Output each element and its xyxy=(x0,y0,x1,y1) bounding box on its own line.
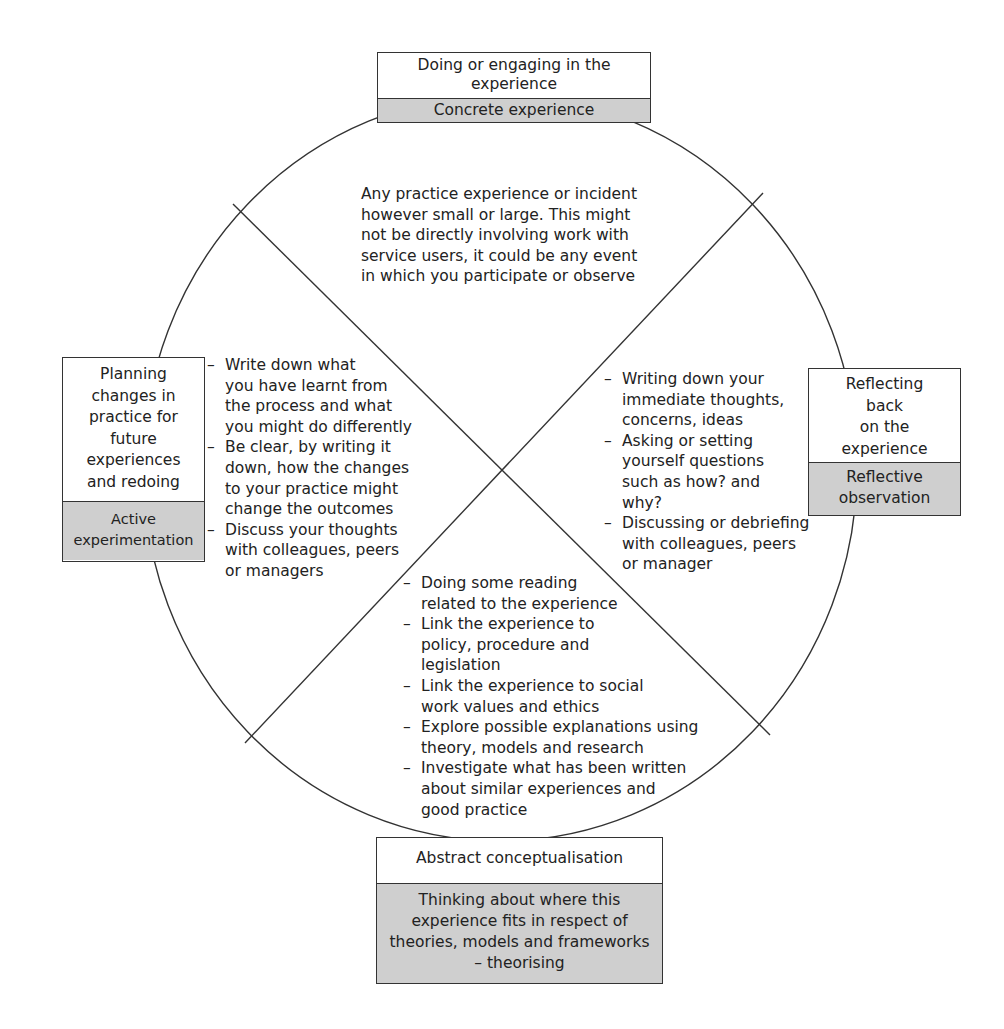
quadrant-left-list: Write down what you have learnt from the… xyxy=(207,355,427,582)
stage-description-left-line: and redoing xyxy=(63,472,204,494)
stage-label-left-line: experimentation xyxy=(63,530,204,551)
item-line: or manager xyxy=(622,554,824,575)
item-line: Asking or setting xyxy=(622,431,824,452)
stage-description-left-line: future xyxy=(63,429,204,451)
quadrant-left-item: Discuss your thoughts with colleagues, p… xyxy=(207,520,427,582)
stage-description-right-line: back xyxy=(809,396,960,418)
stage-label-right-line: observation xyxy=(809,488,960,509)
item-line: Explore possible explanations using xyxy=(421,717,743,738)
quadrant-bottom-item: Link the experience to social work value… xyxy=(403,676,743,717)
quadrant-right-item: Writing down your immediate thoughts, co… xyxy=(604,369,824,431)
stage-description-left-line: practice for xyxy=(63,407,204,429)
quadrant-top-line: however small or large. This might xyxy=(361,205,661,226)
quadrant-top-line: Any practice experience or incident xyxy=(361,184,661,205)
item-line: Write down what xyxy=(225,355,427,376)
quadrant-right-list: Writing down your immediate thoughts, co… xyxy=(604,369,824,575)
quadrant-right-item: Discussing or debriefing with colleagues… xyxy=(604,513,824,575)
item-line: yourself questions xyxy=(622,451,824,472)
stage-description-right-line: Reflecting xyxy=(809,374,960,396)
item-line: good practice xyxy=(421,800,743,821)
stage-description-left-line: changes in xyxy=(63,386,204,408)
item-line: legislation xyxy=(421,655,743,676)
item-line: Link the experience to social xyxy=(421,676,743,697)
item-line: to your practice might xyxy=(225,479,427,500)
stage-description-right-line: on the xyxy=(809,417,960,439)
quadrant-bottom-item: Link the experience to policy, procedure… xyxy=(403,614,743,676)
item-line: down, how the changes xyxy=(225,458,427,479)
quadrant-bottom-list: Doing some reading related to the experi… xyxy=(403,573,743,820)
quadrant-bottom-item: Investigate what has been written about … xyxy=(403,758,743,820)
stage-description-left-line: experiences xyxy=(63,450,204,472)
item-line: why? xyxy=(622,493,824,514)
stage-label-left-line: Active xyxy=(63,509,204,530)
item-line: with colleagues, peers xyxy=(225,540,427,561)
item-line: related to the experience xyxy=(421,594,743,615)
quadrant-top-line: service users, it could be any event xyxy=(361,246,661,267)
quadrant-text-bottom: Doing some reading related to the experi… xyxy=(403,573,743,820)
item-line: you have learnt from xyxy=(225,376,427,397)
item-line: you might do differently xyxy=(225,417,427,438)
stage-description-bottom-line: Thinking about where this xyxy=(377,890,662,911)
stage-description-top: Doing or engaging in the experience xyxy=(417,56,610,93)
item-line: about similar experiences and xyxy=(421,779,743,800)
stage-label-right-line: Reflective xyxy=(809,467,960,488)
stage-description-bottom-line: experience fits in respect of xyxy=(377,911,662,932)
stage-description-bottom-line: – theorising xyxy=(377,953,662,974)
item-line: change the outcomes xyxy=(225,499,427,520)
quadrant-top-line: in which you participate or observe xyxy=(361,266,661,287)
quadrant-bottom-item: Doing some reading related to the experi… xyxy=(403,573,743,614)
stage-box-concrete-experience: Doing or engaging in the experience Conc… xyxy=(377,52,651,123)
quadrant-top-line: not be directly involving work with xyxy=(361,225,661,246)
stage-box-active-experimentation: Planning changes in practice for future … xyxy=(62,357,205,562)
item-line: policy, procedure and xyxy=(421,635,743,656)
item-line: concerns, ideas xyxy=(622,410,824,431)
item-line: Investigate what has been written xyxy=(421,758,743,779)
quadrant-left-item: Write down what you have learnt from the… xyxy=(207,355,427,437)
item-line: with colleagues, peers xyxy=(622,534,824,555)
item-line: Discussing or debriefing xyxy=(622,513,824,534)
stage-box-reflective-observation: Reflecting back on the experience Reflec… xyxy=(808,368,961,516)
quadrant-bottom-item: Explore possible explanations using theo… xyxy=(403,717,743,758)
item-line: Discuss your thoughts xyxy=(225,520,427,541)
quadrant-right-item: Asking or setting yourself questions suc… xyxy=(604,431,824,513)
item-line: Link the experience to xyxy=(421,614,743,635)
stage-label-top: Concrete experience xyxy=(434,101,595,119)
item-line: work values and ethics xyxy=(421,697,743,718)
stage-description-left-line: Planning xyxy=(63,364,204,386)
item-line: Doing some reading xyxy=(421,573,743,594)
item-line: Writing down your xyxy=(622,369,824,390)
item-line: immediate thoughts, xyxy=(622,390,824,411)
item-line: the process and what xyxy=(225,396,427,417)
item-line: such as how? and xyxy=(622,472,824,493)
stage-label-bottom: Abstract conceptualisation xyxy=(416,849,623,867)
stage-description-right-line: experience xyxy=(809,439,960,461)
item-line: or managers xyxy=(225,561,427,582)
quadrant-text-right: Writing down your immediate thoughts, co… xyxy=(604,369,824,575)
item-line: Be clear, by writing it xyxy=(225,437,427,458)
quadrant-text-top: Any practice experience or incident howe… xyxy=(361,184,661,287)
stage-description-bottom-line: theories, models and frameworks xyxy=(377,932,662,953)
item-line: theory, models and research xyxy=(421,738,743,759)
quadrant-left-item: Be clear, by writing it down, how the ch… xyxy=(207,437,427,519)
stage-box-abstract-conceptualisation: Abstract conceptualisation Thinking abou… xyxy=(376,837,663,984)
quadrant-text-left: Write down what you have learnt from the… xyxy=(207,355,427,582)
